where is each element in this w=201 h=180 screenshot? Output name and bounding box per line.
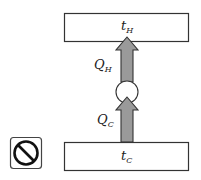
heat-pump-diagram: tH QH QC tC: [0, 0, 201, 180]
heat-out-arrow: [116, 37, 138, 82]
heat-out-label: QH: [94, 57, 113, 74]
prohibited-icon: [11, 138, 42, 169]
heat-in-label: QC: [97, 112, 114, 129]
heat-in-arrow: [116, 97, 138, 142]
